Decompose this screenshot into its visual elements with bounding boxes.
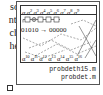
figure-box: α α2 α3 α4 α5 α6 α7 α8 α9 01010 → 00000 (16, 1, 100, 85)
alpha-label: α16 (74, 55, 81, 62)
alpha-label: α10 (22, 55, 29, 62)
filename-label: probdeth15.m (49, 66, 96, 74)
alpha-label: α11 (31, 55, 38, 62)
filename-label: probdet.m (61, 74, 96, 82)
alpha-label: α15 (66, 55, 73, 62)
diagram-panel: α α2 α3 α4 α5 α6 α7 α8 α9 01010 → 00000 (20, 5, 97, 63)
alpha-label: α14 (57, 55, 64, 62)
alpha-bottom-row: α10 α11 α12 α13 α14 α15 α16 (22, 53, 82, 62)
end-of-proof-icon (7, 85, 13, 91)
alpha-label: α13 (48, 55, 55, 62)
alpha-label: α12 (39, 55, 46, 62)
